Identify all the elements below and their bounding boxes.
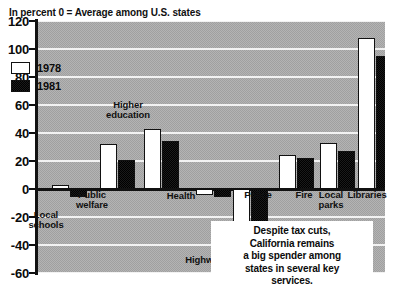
category-label-health: Health [153, 191, 209, 201]
legend-label-1981: 1981 [37, 80, 61, 92]
callout-box: Despite tax cuts, California remains a b… [211, 221, 373, 293]
y-axis-tick-label: 100 [0, 43, 29, 56]
y-axis-tick [29, 272, 37, 274]
bar-local-schools-1978 [52, 185, 69, 189]
header-note: In percent 0 = Average among U.S. states [9, 6, 201, 19]
y-axis-tick-label: 0 [0, 183, 29, 196]
y-axis-tick [29, 132, 37, 134]
y-axis-line [35, 19, 38, 275]
gridline [37, 76, 385, 78]
legend-item-1978: 1978 [11, 62, 61, 74]
y-axis-tick [29, 188, 37, 190]
bar-police-1981 [297, 158, 314, 189]
y-axis-tick [29, 48, 37, 50]
chart-legend: 1978 1981 [11, 62, 61, 98]
y-axis-tick [29, 20, 37, 22]
bar-public-welfare-1981 [118, 160, 135, 189]
category-label-libraries: Libraries [339, 190, 395, 200]
legend-label-1978: 1978 [37, 62, 61, 74]
y-axis-tick-label: 20 [0, 155, 29, 168]
gridline [37, 132, 385, 134]
gridline [37, 48, 385, 50]
gridline [37, 21, 385, 22]
gridline [37, 216, 385, 218]
open-square-swatch-icon [11, 62, 30, 74]
y-axis-tick-label: -60 [0, 267, 29, 280]
y-axis-tick [29, 104, 37, 106]
bar-local-parks-1981 [376, 56, 386, 189]
y-axis-tick-label: 40 [0, 127, 29, 140]
filled-square-swatch-icon [11, 80, 30, 92]
category-label-public-welfare: Public welfare [64, 190, 120, 209]
category-label-local-schools: Local schools [18, 210, 74, 229]
y-axis-tick [29, 160, 37, 162]
y-axis-tick-label: 60 [0, 99, 29, 112]
bar-fire-1978 [320, 143, 337, 189]
category-label-higher-education: Higher education [100, 100, 156, 119]
bar-public-welfare-1978 [100, 144, 117, 189]
bar-fire-1981 [338, 151, 355, 189]
bar-higher-education-1978 [144, 129, 161, 189]
bar-police-1978 [279, 155, 296, 189]
legend-item-1981: 1981 [11, 80, 61, 92]
bar-higher-education-1981 [162, 141, 179, 189]
bar-health-1981 [214, 189, 231, 197]
y-axis-tick-label: -40 [0, 239, 29, 252]
y-axis-tick [29, 244, 37, 246]
gridline [37, 104, 385, 106]
chart-figure: 120100806040200-20-40-60 Local schoolsPu… [0, 0, 396, 295]
bar-local-parks-1978 [358, 38, 375, 189]
